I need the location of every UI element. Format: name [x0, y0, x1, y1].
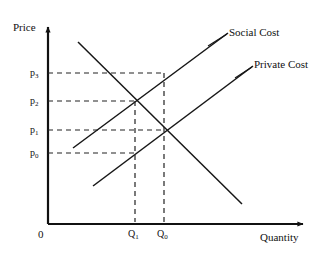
social-cost-curve: [73, 33, 228, 148]
price-tick-p1: p1: [30, 125, 39, 135]
price-tick-p0-sub: 0: [35, 152, 39, 160]
price-tick-p3: p3: [30, 68, 39, 78]
quantity-tick-q0-sub: 0: [164, 233, 168, 241]
private-cost-leader-line: [235, 67, 252, 78]
private-cost-label: Private Cost: [254, 59, 308, 70]
social-cost-label: Social Cost: [229, 27, 279, 38]
quantity-tick-q1: Q1: [128, 229, 139, 239]
price-tick-p3-sub: 3: [35, 72, 39, 80]
quantity-tick-q1-sub: 1: [135, 233, 139, 241]
y-axis-title: Price: [13, 22, 36, 33]
origin-label: 0: [38, 229, 44, 240]
quantity-tick-q0: Q0: [157, 229, 168, 239]
chart-canvas: [0, 0, 325, 259]
price-tick-p2-sub: 2: [35, 100, 39, 108]
price-tick-p0: p0: [30, 148, 39, 158]
x-axis-title: Quantity: [260, 232, 299, 243]
private-cost-curve: [93, 66, 253, 186]
price-tick-p1-sub: 1: [35, 129, 39, 137]
social-cost-leader-line: [208, 34, 227, 46]
externality-diagram: Price Quantity 0 Social Cost Private Cos…: [0, 0, 325, 259]
price-tick-p2: p2: [30, 96, 39, 106]
